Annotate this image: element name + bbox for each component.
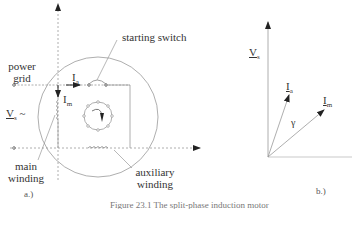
aux-winding-label: auxiliary winding [130, 166, 180, 190]
ia-phasor-sub: a [290, 87, 293, 95]
panel-a-label: a.) [24, 189, 33, 199]
vs-phasor-label: Vs [249, 46, 260, 61]
im-phasor-label: Im [323, 94, 332, 109]
panel-b-phasor-diagram [268, 22, 352, 157]
im-phasor [268, 110, 324, 157]
power-grid-line2: grid [4, 72, 40, 84]
main-winding-label: main winding [6, 160, 46, 184]
im-sub: m [67, 100, 72, 108]
figure-caption: Figure 23.1 The split-phase induction mo… [110, 200, 269, 209]
vs-sub: s [14, 114, 17, 122]
im-phasor-sub: m [327, 101, 332, 109]
gamma-angle-label: γ [291, 117, 295, 128]
main-winding-line1: main [6, 160, 46, 172]
ac-tilde: ~ [19, 107, 25, 119]
starting-switch [89, 80, 106, 84]
aux-winding-line2: winding [130, 178, 180, 190]
vs-source-label: Vs ~ [6, 107, 25, 122]
power-grid-line1: power [4, 60, 40, 72]
ia-sub: a [76, 78, 79, 86]
rotation-arrow-icon [100, 113, 104, 122]
ia-label: Ia [72, 71, 79, 86]
ia-phasor-label: Ia [286, 80, 293, 95]
aux-winding-line1: auxiliary [130, 166, 180, 178]
panel-b-label: b.) [316, 186, 326, 196]
vs-phasor-sub: s [257, 53, 260, 61]
main-winding-line2: winding [6, 172, 46, 184]
power-grid-label: power grid [4, 60, 40, 84]
starting-switch-label: starting switch [122, 31, 186, 43]
vs-phasor-symbol: V [249, 46, 257, 58]
vs-symbol: V [6, 107, 14, 119]
im-label: Im [63, 93, 72, 108]
stator-circle [38, 57, 158, 177]
